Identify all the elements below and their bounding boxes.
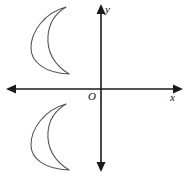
crescent-upper [31, 7, 69, 74]
x-axis-label: x [169, 91, 175, 103]
y-axis-label: y [104, 3, 110, 15]
y-axis-down-arrowhead [97, 162, 106, 172]
x-axis-left-arrowhead [6, 85, 16, 94]
crescent-lower [31, 104, 69, 170]
coordinate-plane-figure: y x O [0, 0, 189, 174]
origin-label: O [88, 90, 96, 102]
figure-canvas: y x O [0, 0, 189, 174]
